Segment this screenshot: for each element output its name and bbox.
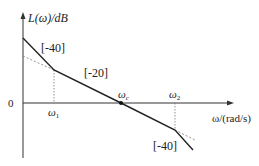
dashed-high-extension xyxy=(175,130,195,140)
slope-low-label: [-40] xyxy=(41,41,65,55)
bode-plot: L(ω)/dB 0 ω/(rad/s) ω1 ωc ω2 [-40] [-20]… xyxy=(0,0,259,166)
dashed-low-extension xyxy=(23,56,54,70)
slope-high-label: [-40] xyxy=(153,139,177,153)
x-axis-arrow-icon xyxy=(227,101,234,106)
omega-c-label: ωc xyxy=(118,88,130,102)
omega2-label: ω2 xyxy=(169,88,181,102)
crossover-point xyxy=(119,101,123,105)
y-axis-arrow-icon xyxy=(21,12,26,19)
omega1-label: ω1 xyxy=(48,106,60,120)
slope-mid-label: [-20] xyxy=(84,66,108,80)
y-axis-label: L(ω)/dB xyxy=(27,11,68,25)
x-axis-label: ω/(rad/s) xyxy=(212,112,251,125)
origin-label: 0 xyxy=(8,97,14,109)
